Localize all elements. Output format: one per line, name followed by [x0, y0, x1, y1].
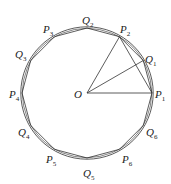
geometry-diagram: P1Q1P2Q2P3Q3P4Q4P5Q5P6Q6O [0, 0, 171, 184]
label-p5: P5 [45, 153, 57, 168]
diagram-labels: P1Q1P2Q2P3Q3P4Q4P5Q5P6Q6O [8, 14, 166, 182]
label-q6: Q6 [146, 126, 158, 141]
label-q3: Q3 [15, 48, 27, 63]
segment-o-p2 [87, 37, 120, 93]
segment-o-q1 [87, 61, 143, 94]
label-q1: Q1 [145, 53, 157, 68]
label-p3: P3 [42, 23, 54, 38]
label-p4: P4 [8, 88, 20, 103]
label-p6: P6 [121, 153, 133, 168]
label-center-o: O [74, 88, 82, 100]
diagram-shapes [21, 27, 153, 159]
label-q5: Q5 [83, 167, 95, 182]
label-p1: P1 [154, 88, 166, 103]
label-q4: Q4 [18, 126, 30, 141]
